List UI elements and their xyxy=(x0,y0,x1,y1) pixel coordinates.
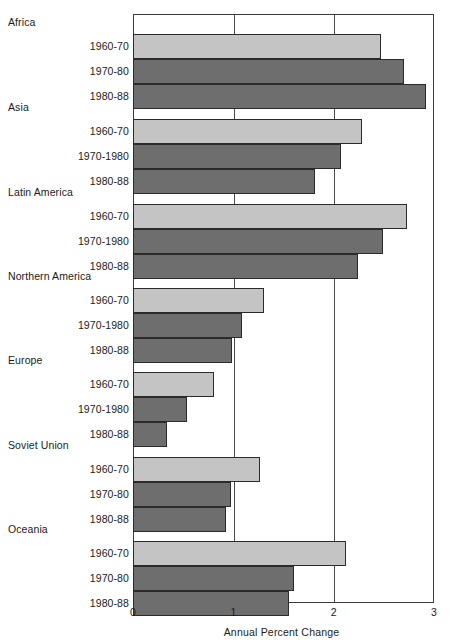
bar xyxy=(133,457,260,482)
bar xyxy=(133,338,232,363)
bar-chart: Africa1960-701970-801980-88Asia1960-7019… xyxy=(0,0,449,640)
region-label: Soviet Union xyxy=(8,439,69,451)
bar xyxy=(133,507,226,532)
region-label: Latin America xyxy=(8,186,73,198)
x-axis-ticks: 0123 xyxy=(0,606,449,622)
x-tick-label: 2 xyxy=(331,606,337,618)
period-label: 1960-70 xyxy=(9,463,129,475)
bar xyxy=(133,541,346,566)
bar xyxy=(133,288,264,313)
bar xyxy=(133,34,381,59)
region-label: Africa xyxy=(8,16,35,28)
region-label: Europe xyxy=(8,354,42,366)
bar xyxy=(133,59,404,84)
period-label: 1960-70 xyxy=(9,547,129,559)
period-label: 1970-80 xyxy=(9,488,129,500)
period-label: 1970-1980 xyxy=(9,150,129,162)
bar xyxy=(133,566,294,591)
bar xyxy=(133,84,426,109)
period-label: 1970-80 xyxy=(9,572,129,584)
bar xyxy=(133,397,187,422)
period-label: 1970-80 xyxy=(9,65,129,77)
period-label: 1960-70 xyxy=(9,378,129,390)
bar xyxy=(133,422,167,447)
region-label: Asia xyxy=(8,101,29,113)
x-tick-label: 0 xyxy=(130,606,136,618)
bar xyxy=(133,169,315,194)
period-label: 1970-1980 xyxy=(9,319,129,331)
x-tick-label: 3 xyxy=(431,606,437,618)
period-label: 1960-70 xyxy=(9,40,129,52)
bar xyxy=(133,119,362,144)
period-label: 1970-1980 xyxy=(9,403,129,415)
period-label: 1960-70 xyxy=(9,125,129,137)
period-label: 1970-1980 xyxy=(9,235,129,247)
bar xyxy=(133,204,407,229)
period-label: 1960-70 xyxy=(9,210,129,222)
region-label: Northern America xyxy=(8,270,91,282)
bar xyxy=(133,482,231,507)
bar xyxy=(133,254,358,279)
bar xyxy=(133,229,383,254)
x-tick-label: 1 xyxy=(230,606,236,618)
x-axis-title-text: Annual Percent Change xyxy=(224,626,340,638)
x-axis-title: Annual Percent Change xyxy=(0,626,449,638)
bar xyxy=(133,313,242,338)
bar xyxy=(133,144,341,169)
region-label: Oceania xyxy=(8,523,48,535)
bar xyxy=(133,372,214,397)
period-label: 1960-70 xyxy=(9,294,129,306)
